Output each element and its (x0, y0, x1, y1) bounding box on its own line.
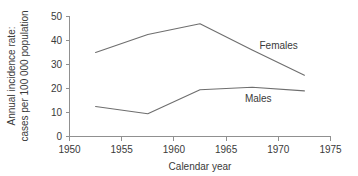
y-axis-ticks: 0 10 20 30 40 50 (51, 11, 70, 142)
y-tick-label-50: 50 (51, 11, 63, 22)
x-tick-label-1960: 1960 (163, 144, 186, 155)
line-chart: Annual incidence rate: cases per 100 000… (0, 0, 358, 176)
y-axis-title-line2: cases per 100 000 population (19, 10, 30, 141)
y-tick-label-20: 20 (51, 83, 63, 94)
x-tick-label-1955: 1955 (111, 144, 134, 155)
y-axis-title-line1: Annual incidence rate: (6, 27, 17, 126)
y-tick-label-10: 10 (51, 107, 63, 118)
x-tick-label-1975: 1975 (319, 144, 342, 155)
x-tick-label-1950: 1950 (58, 144, 81, 155)
series-label-males: Males (245, 93, 272, 104)
y-tick-label-0: 0 (56, 131, 62, 142)
x-axis-ticks: 1950 1955 1960 1965 1970 1975 (58, 137, 342, 156)
y-axis-title: Annual incidence rate: cases per 100 000… (6, 10, 30, 141)
y-tick-label-30: 30 (51, 59, 63, 70)
x-tick-label-1970: 1970 (267, 144, 290, 155)
chart-container: Annual incidence rate: cases per 100 000… (0, 0, 358, 176)
y-tick-label-40: 40 (51, 35, 63, 46)
x-axis-title: Calendar year (169, 161, 232, 172)
series-label-females: Females (260, 40, 298, 51)
x-tick-label-1965: 1965 (215, 144, 238, 155)
series-line-males (96, 87, 305, 113)
